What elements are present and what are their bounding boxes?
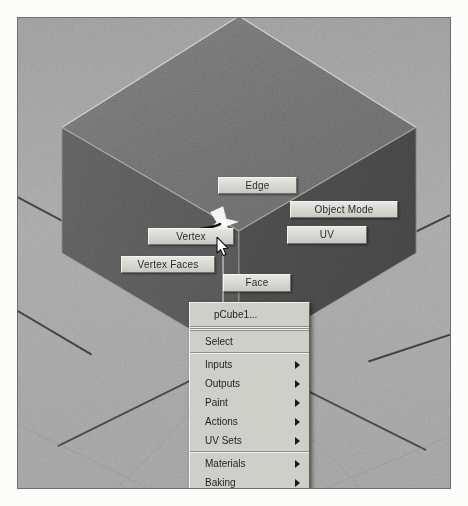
submenu-arrow-icon xyxy=(295,437,300,445)
marking-menu-item-vertex[interactable]: Vertex xyxy=(148,228,234,245)
menu-item-label: Actions xyxy=(205,416,238,427)
menu-separator xyxy=(190,352,309,354)
viewport-3d[interactable]: Edge Object Mode UV Vertex Vertex Faces … xyxy=(17,17,451,489)
menu-item-actions[interactable]: Actions xyxy=(190,412,309,431)
marking-menu-item-edge[interactable]: Edge xyxy=(218,177,297,194)
menu-item-materials[interactable]: Materials xyxy=(190,454,309,473)
submenu-arrow-icon xyxy=(295,380,300,388)
marking-menu-item-object-mode[interactable]: Object Mode xyxy=(290,201,398,218)
marking-menu-item-uv[interactable]: UV xyxy=(287,226,367,244)
menu-item-uv-sets[interactable]: UV Sets xyxy=(190,431,309,450)
menu-item-label: Outputs xyxy=(205,378,240,389)
submenu-arrow-icon xyxy=(295,399,300,407)
menu-item-label: Inputs xyxy=(205,359,232,370)
menu-tearoff-handle[interactable] xyxy=(190,326,309,331)
menu-item-label: Baking xyxy=(205,477,236,488)
menu-item-outputs[interactable]: Outputs xyxy=(190,374,309,393)
marking-menu-item-vertex-faces[interactable]: Vertex Faces xyxy=(121,256,215,273)
submenu-arrow-icon xyxy=(295,418,300,426)
menu-item-baking[interactable]: Baking xyxy=(190,473,309,489)
menu-item-label: Materials xyxy=(205,458,246,469)
menu-item-label: UV Sets xyxy=(205,435,242,446)
menu-separator xyxy=(190,451,309,453)
menu-item-inputs[interactable]: Inputs xyxy=(190,355,309,374)
menu-item-label: Select xyxy=(205,336,233,347)
menu-item-label: Paint xyxy=(205,397,228,408)
marking-menu-item-face[interactable]: Face xyxy=(223,274,291,292)
menu-item-select[interactable]: Select xyxy=(190,332,309,351)
context-menu-header: pCube1... xyxy=(190,303,309,325)
page-root: Edge Object Mode UV Vertex Vertex Faces … xyxy=(0,0,468,506)
submenu-arrow-icon xyxy=(295,479,300,487)
context-menu[interactable]: pCube1... Select Inputs Outputs Paint Ac… xyxy=(189,302,310,489)
menu-item-paint[interactable]: Paint xyxy=(190,393,309,412)
submenu-arrow-icon xyxy=(295,460,300,468)
submenu-arrow-icon xyxy=(295,361,300,369)
